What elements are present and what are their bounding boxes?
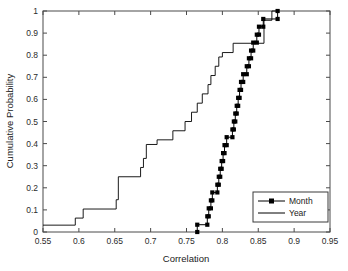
x-tick-label: 0.95: [322, 236, 339, 246]
data-point-marker: [210, 190, 214, 194]
y-tick-label: 0.5: [26, 117, 38, 127]
data-point-marker: [257, 33, 261, 37]
data-point-marker: [255, 41, 259, 45]
x-tick-label: 0.65: [106, 236, 123, 246]
data-point-marker: [225, 143, 229, 147]
data-point-marker: [239, 88, 243, 92]
data-point-marker: [241, 80, 245, 84]
data-point-marker: [245, 72, 249, 76]
data-point-marker: [230, 135, 234, 139]
data-point-marker: [222, 151, 226, 155]
data-point-marker: [276, 17, 280, 21]
data-point-marker: [221, 159, 225, 163]
cdf-plot: 0.550.60.650.70.750.80.850.90.95 00.10.2…: [0, 0, 348, 271]
data-point-marker: [217, 183, 221, 187]
data-point-marker: [257, 25, 261, 29]
x-tick-label: 0.55: [35, 236, 52, 246]
data-point-marker: [195, 223, 199, 227]
data-point-marker: [237, 96, 241, 100]
data-point-marker: [232, 127, 236, 131]
data-point-marker: [249, 56, 253, 60]
data-point-marker: [225, 135, 229, 139]
data-point-marker: [209, 206, 213, 210]
data-point-marker: [233, 119, 237, 123]
data-point-marker: [241, 72, 245, 76]
data-point-marker: [205, 223, 209, 227]
y-axis-title: Cumulative Probability: [4, 73, 15, 168]
data-point-marker: [220, 167, 224, 171]
data-point-marker: [247, 64, 251, 68]
y-tick-label: 0.8: [26, 50, 38, 60]
x-tick-labels: 0.550.60.650.70.750.80.850.90.95: [35, 236, 339, 246]
data-point-marker: [215, 190, 219, 194]
data-point-marker: [195, 230, 199, 234]
data-point-marker: [218, 175, 222, 179]
y-tick-label: 1: [33, 6, 38, 16]
chart-figure: 0.550.60.650.70.750.80.850.90.95 00.10.2…: [0, 0, 348, 271]
y-tick-label: 0.9: [26, 28, 38, 38]
y-tick-label: 0.3: [26, 161, 38, 171]
y-tick-label: 0: [33, 227, 38, 237]
data-point-marker: [236, 104, 240, 108]
x-tick-label: 0.8: [216, 236, 228, 246]
x-tick-label: 0.75: [178, 236, 195, 246]
data-point-marker: [210, 198, 214, 202]
y-tick-label: 0.4: [26, 139, 38, 149]
x-axis-title: Correlation: [163, 253, 209, 264]
y-tick-label: 0.2: [26, 183, 38, 193]
x-tick-label: 0.9: [288, 236, 300, 246]
y-tick-label: 0.6: [26, 94, 38, 104]
data-point-marker: [261, 25, 265, 29]
legend-label-month: Month: [289, 196, 313, 206]
data-point-marker: [251, 41, 255, 45]
data-point-marker: [235, 111, 239, 115]
x-tick-label: 0.6: [73, 236, 85, 246]
legend-marker-month: [269, 199, 274, 204]
data-point-marker: [251, 48, 255, 52]
y-tick-label: 0.1: [26, 205, 38, 215]
y-tick-label: 0.7: [26, 72, 38, 82]
data-point-marker: [207, 214, 211, 218]
legend-label-year: Year: [289, 208, 306, 218]
chart-legend[interactable]: Month Year: [253, 192, 328, 222]
x-tick-label: 0.85: [250, 236, 267, 246]
x-tick-label: 0.7: [145, 236, 157, 246]
